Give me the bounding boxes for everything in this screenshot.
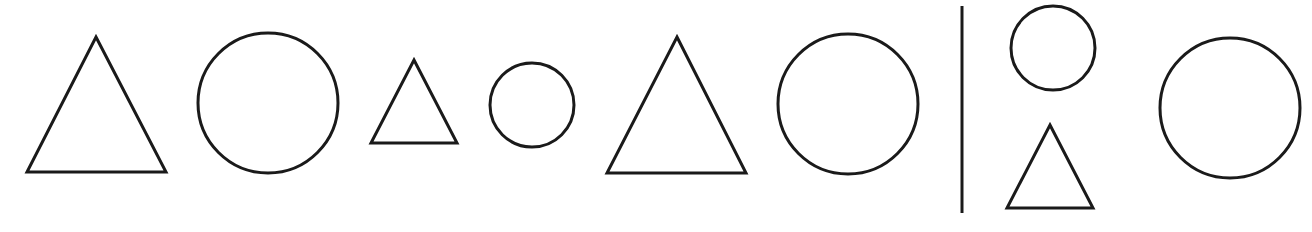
shape-sequence [27,33,918,174]
sequence-large-circle-icon [198,33,338,173]
sequence-large-circle-icon [778,34,918,174]
option-large-circle-icon [1160,38,1300,178]
answer-options [1007,6,1300,208]
option-large-circle [1160,38,1300,178]
sequence-large-triangle-icon [27,37,166,172]
pattern-figure [0,0,1312,232]
option-small-triangle-icon [1007,125,1093,208]
sequence-small-triangle-icon [371,60,457,143]
sequence-large-triangle-icon [607,37,746,173]
option-stack [1007,6,1095,208]
sequence-small-circle-icon [490,63,574,147]
option-small-circle-icon [1011,6,1095,90]
